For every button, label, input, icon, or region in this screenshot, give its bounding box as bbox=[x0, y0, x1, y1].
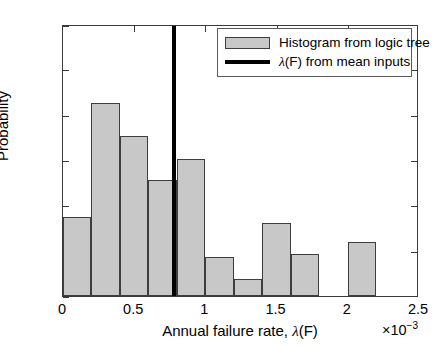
x-tick-label-5: 2.5 bbox=[408, 302, 428, 317]
legend-line-icon bbox=[223, 60, 272, 64]
exponent-base: ×10 bbox=[382, 322, 407, 338]
x-tick-label-3: 1.5 bbox=[266, 302, 286, 317]
legend-item-histogram[interactable]: Histogram from logic tree bbox=[223, 33, 406, 52]
y-tick-0 bbox=[63, 297, 69, 298]
x-axis-exponent: ×10−3 bbox=[382, 320, 418, 338]
legend[interactable]: Histogram from logic tree λ(F) from mean… bbox=[217, 28, 412, 77]
exponent-power: −3 bbox=[407, 320, 418, 331]
legend-label-histogram: Histogram from logic tree bbox=[279, 36, 430, 50]
x-axis-title-suffix: (F) bbox=[299, 322, 318, 339]
legend-patch-icon bbox=[223, 37, 272, 49]
x-axis-title: Annual failure rate, λ(F) bbox=[62, 322, 418, 340]
legend-item-mean-line[interactable]: λ(F) from mean inputs bbox=[223, 52, 406, 71]
legend-label-suffix: (F) from mean inputs bbox=[285, 54, 410, 69]
mean-inputs-reference-line bbox=[172, 26, 175, 296]
x-tick-label-4: 2 bbox=[343, 302, 351, 317]
x-tick-label-0: 0 bbox=[58, 302, 66, 317]
x-axis-title-prefix: Annual failure rate, bbox=[162, 322, 292, 339]
histogram-figure: Probability 0 0.05 0.1 0.15 0.2 0.25 0.3… bbox=[0, 0, 436, 346]
x-tick-label-1: 0.5 bbox=[123, 302, 143, 317]
x-tick-label-2: 1 bbox=[200, 302, 208, 317]
legend-label-mean-line: λ(F) from mean inputs bbox=[279, 55, 410, 69]
y-axis-title: Probability bbox=[0, 91, 11, 161]
